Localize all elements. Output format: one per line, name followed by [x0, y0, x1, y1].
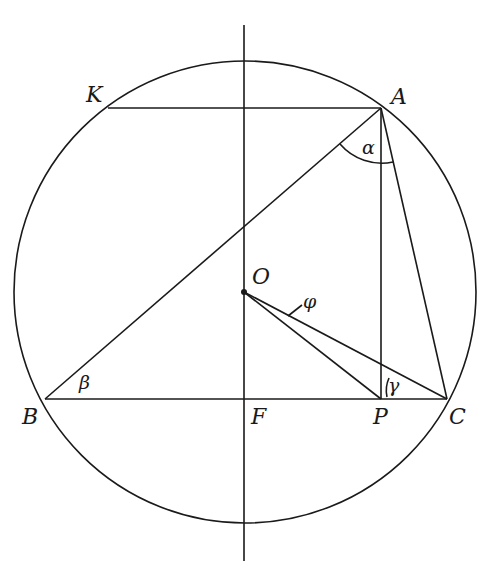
segment-OC	[244, 292, 447, 399]
side-AC	[381, 108, 447, 399]
angle-phi-label: φ	[303, 290, 317, 312]
angle-gamma-label: γ	[388, 374, 400, 396]
angle-alpha-label: α	[362, 136, 375, 158]
label-B: B	[21, 404, 38, 429]
label-K: K	[85, 82, 104, 107]
side-AB	[45, 108, 381, 399]
angle-beta-label: β	[78, 371, 90, 393]
label-A: A	[389, 84, 407, 109]
geometry-diagram: K A B F P C O α β γ φ	[0, 0, 489, 575]
angle-phi-tick	[288, 305, 302, 316]
label-F: F	[250, 404, 267, 429]
center-point-O	[241, 289, 247, 295]
label-C: C	[449, 404, 466, 429]
label-O: O	[252, 264, 270, 289]
label-P: P	[372, 404, 389, 429]
